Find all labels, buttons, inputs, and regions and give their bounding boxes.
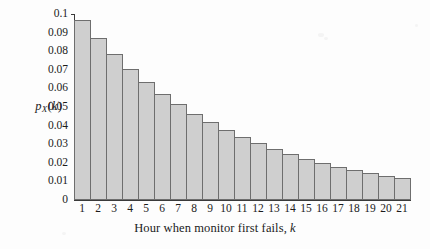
bar — [266, 149, 283, 200]
x-tick-label: 2 — [90, 202, 106, 215]
bar — [138, 82, 155, 200]
bar — [202, 122, 219, 200]
y-tick-label: 0.09 — [26, 27, 68, 38]
x-tick-label: 10 — [218, 202, 234, 215]
bar — [122, 69, 139, 200]
y-tick-label: 0.1 — [26, 8, 68, 19]
bar — [298, 159, 315, 200]
x-tick-label: 19 — [362, 202, 378, 215]
bar — [346, 170, 363, 200]
bar — [234, 137, 251, 200]
bar — [74, 20, 91, 200]
bar — [394, 178, 411, 200]
y-tick-label: 0.08 — [26, 45, 68, 56]
y-tick-label: 0.07 — [26, 64, 68, 75]
x-tick-label: 16 — [314, 202, 330, 215]
x-tick-label: 11 — [234, 202, 250, 215]
y-tick-label: 0.03 — [26, 138, 68, 149]
x-axis-tick-labels: 123456789101112131415161718192021 — [74, 202, 410, 218]
y-tick-label: 0.05 — [26, 101, 68, 112]
bar — [330, 167, 347, 200]
bar-series — [74, 14, 410, 200]
x-tick-label: 6 — [154, 202, 170, 215]
x-label-variable: k — [290, 221, 296, 235]
x-tick-label: 17 — [330, 202, 346, 215]
x-tick-label: 4 — [122, 202, 138, 215]
bar — [106, 54, 123, 200]
x-axis-line — [74, 200, 411, 201]
bar — [170, 104, 187, 200]
plot-area — [74, 14, 410, 200]
scan-speck — [62, 232, 66, 235]
x-tick-label: 13 — [266, 202, 282, 215]
bar — [378, 176, 395, 200]
bar — [186, 114, 203, 200]
x-tick-label: 20 — [378, 202, 394, 215]
bar — [218, 130, 235, 200]
y-tick-label: 0.01 — [26, 175, 68, 186]
y-tick-label: 0.06 — [26, 82, 68, 93]
bar — [90, 38, 107, 200]
bar — [250, 143, 267, 200]
x-tick-label: 5 — [138, 202, 154, 215]
x-tick-label: 12 — [250, 202, 266, 215]
x-tick-label: 3 — [106, 202, 122, 215]
bar — [282, 154, 299, 200]
x-tick-label: 21 — [394, 202, 410, 215]
bar — [314, 163, 331, 200]
x-tick-label: 7 — [170, 202, 186, 215]
scan-speck — [324, 37, 328, 40]
x-tick-label: 8 — [186, 202, 202, 215]
x-tick-label: 9 — [202, 202, 218, 215]
y-tick-label: 0.02 — [26, 157, 68, 168]
y-axis-tick-labels: 0.10.090.080.070.060.050.040.030.020.010 — [26, 0, 68, 249]
bar — [154, 94, 171, 200]
x-tick-label: 15 — [298, 202, 314, 215]
x-tick-label: 18 — [346, 202, 362, 215]
y-tick-label: 0 — [26, 194, 68, 205]
x-tick-label: 1 — [74, 202, 90, 215]
x-label-text: Hour when monitor first fails, — [134, 221, 287, 235]
y-tick-label: 0.04 — [26, 120, 68, 131]
bar — [362, 173, 379, 200]
chart-figure: pX(k) 0.10.090.080.070.060.050.040.030.0… — [0, 0, 430, 249]
x-tick-label: 14 — [282, 202, 298, 215]
scan-speck — [415, 24, 418, 27]
scan-speck — [318, 33, 324, 37]
